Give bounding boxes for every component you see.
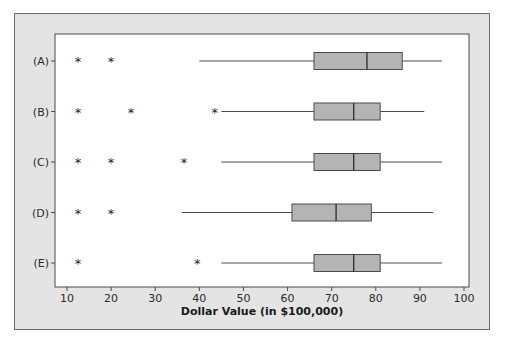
x-tick-label: 30 bbox=[148, 292, 162, 305]
x-tick-label: 80 bbox=[369, 292, 383, 305]
category-label: (C) bbox=[33, 156, 49, 169]
y-axis: (A)(B)(C)(D)(E) bbox=[32, 55, 55, 270]
outlier-asterisk-icon: * bbox=[75, 105, 82, 120]
boxplot-chart: 102030405060708090100 (A)(B)(C)(D)(E) **… bbox=[0, 0, 507, 345]
x-tick-label: 60 bbox=[281, 292, 295, 305]
category-label: (D) bbox=[32, 207, 49, 220]
outlier-asterisk-icon: * bbox=[108, 155, 115, 170]
iqr-box bbox=[314, 255, 380, 272]
x-tick-label: 10 bbox=[60, 292, 74, 305]
plot-area bbox=[55, 34, 469, 287]
outlier-asterisk-icon: * bbox=[75, 155, 82, 170]
x-tick-label: 70 bbox=[325, 292, 339, 305]
iqr-box bbox=[314, 154, 380, 171]
outlier-asterisk-icon: * bbox=[128, 105, 135, 120]
x-tick-label: 50 bbox=[236, 292, 250, 305]
outlier-asterisk-icon: * bbox=[75, 256, 82, 271]
outlier-asterisk-icon: * bbox=[108, 206, 115, 221]
outlier-asterisk-icon: * bbox=[75, 54, 82, 69]
outlier-asterisk-icon: * bbox=[75, 206, 82, 221]
outlier-asterisk-icon: * bbox=[181, 155, 188, 170]
x-tick-label: 100 bbox=[454, 292, 475, 305]
iqr-box bbox=[314, 103, 380, 120]
iqr-box bbox=[292, 204, 371, 221]
iqr-box bbox=[314, 53, 402, 70]
category-label: (E) bbox=[33, 257, 49, 270]
x-tick-label: 20 bbox=[104, 292, 118, 305]
x-tick-label: 40 bbox=[192, 292, 206, 305]
outlier-asterisk-icon: * bbox=[108, 54, 115, 69]
x-axis: 102030405060708090100 bbox=[60, 287, 475, 305]
outlier-asterisk-icon: * bbox=[212, 105, 219, 120]
category-label: (B) bbox=[33, 106, 49, 119]
outlier-asterisk-icon: * bbox=[194, 256, 201, 271]
category-label: (A) bbox=[33, 55, 49, 68]
x-axis-label: Dollar Value (in $100,000) bbox=[181, 305, 343, 318]
x-tick-label: 90 bbox=[413, 292, 427, 305]
